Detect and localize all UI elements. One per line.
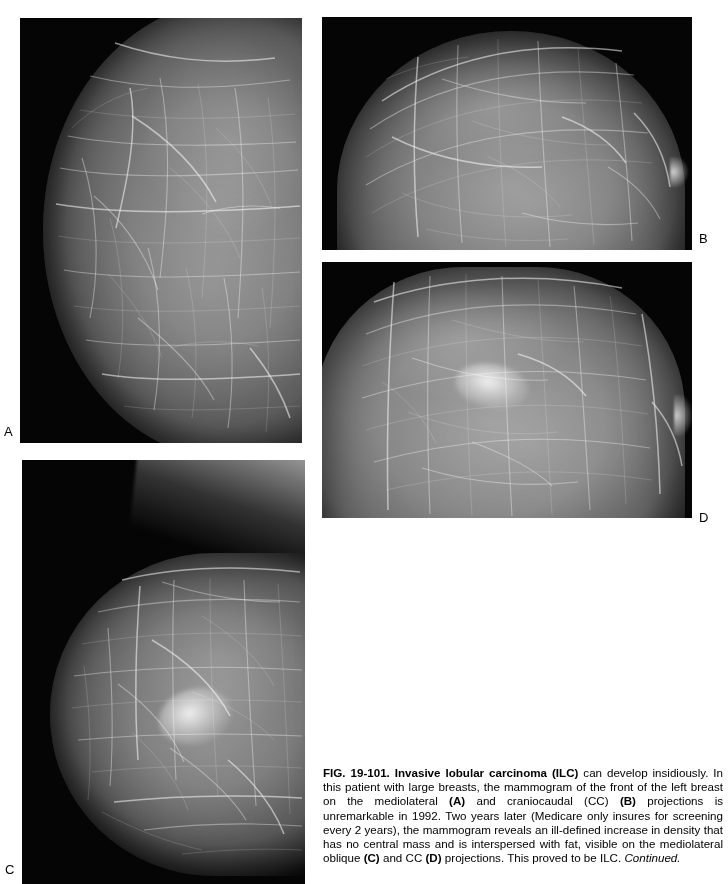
panel-label-c: C: [5, 862, 15, 877]
figure-page: A: [0, 0, 728, 884]
film-grain-a: [20, 18, 302, 443]
caption-text-4: and CC: [380, 851, 426, 864]
caption-figure-number: FIG. 19-101. Invasive lobular carcinoma …: [323, 766, 578, 779]
mammogram-image-a: [20, 18, 302, 443]
caption-ref-a: (A): [449, 794, 465, 807]
panel-label-a: A: [4, 424, 13, 439]
mammogram-image-d: [322, 262, 692, 518]
caption-ref-b: (B): [620, 794, 636, 807]
panel-label-d: D: [699, 510, 709, 525]
mammogram-image-b: [322, 17, 692, 250]
film-grain-d: [322, 262, 692, 518]
mammogram-panel-a: [20, 18, 302, 443]
caption-ref-c: (C): [364, 851, 380, 864]
caption-text-2: and craniocaudal (CC): [465, 794, 620, 807]
panel-label-b: B: [699, 231, 708, 246]
film-grain-c: [22, 460, 305, 884]
mammogram-panel-c: [22, 460, 305, 884]
caption-text-5: projections. This proved to be ILC.: [442, 851, 625, 864]
film-grain-b: [322, 17, 692, 250]
mammogram-panel-d: [322, 262, 692, 518]
figure-caption: FIG. 19-101. Invasive lobular carcinoma …: [323, 766, 723, 865]
mammogram-panel-b: [322, 17, 692, 250]
caption-continued: Continued.: [624, 851, 680, 864]
mammogram-image-c: [22, 460, 305, 884]
caption-ref-d: (D): [426, 851, 442, 864]
